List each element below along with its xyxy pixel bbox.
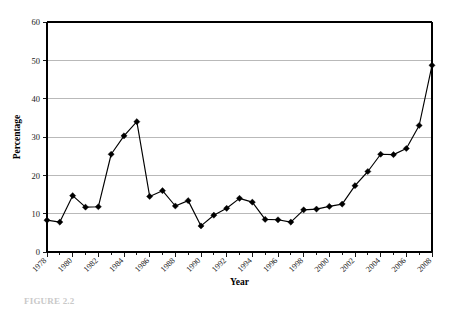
data-point-marker xyxy=(275,217,281,223)
y-tick-label: 60 xyxy=(32,17,41,27)
x-tick-label-group: 1988 xyxy=(159,256,177,274)
x-tick-label-group: 2008 xyxy=(415,256,433,274)
x-tick-label: 2008 xyxy=(415,256,433,274)
y-tick-label: 10 xyxy=(32,209,41,219)
y-tick-label: 50 xyxy=(32,56,41,66)
x-tick-label-group: 1990 xyxy=(184,256,202,274)
data-point-marker xyxy=(185,198,191,204)
x-tick-label: 1996 xyxy=(261,256,279,274)
x-tick-label: 1980 xyxy=(56,256,74,274)
x-tick-label-group: 1984 xyxy=(107,256,125,274)
x-tick-label-group: 1992 xyxy=(210,256,228,274)
x-tick-label-group: 1978 xyxy=(30,256,48,274)
x-tick-label: 2002 xyxy=(338,256,356,274)
y-tick-label: 40 xyxy=(32,94,41,104)
x-tick-label: 1978 xyxy=(30,256,48,274)
x-tick-label-group: 1980 xyxy=(56,256,74,274)
x-tick-label-group: 1996 xyxy=(261,256,279,274)
data-point-marker xyxy=(95,204,101,210)
x-tick-label: 1990 xyxy=(184,256,202,274)
figure-caption: FIGURE 2.2 xyxy=(24,296,75,306)
data-point-marker xyxy=(403,145,409,151)
x-tick-label: 1984 xyxy=(107,256,125,274)
data-series-line xyxy=(47,65,432,226)
data-point-marker xyxy=(429,62,435,68)
x-tick-label-group: 2002 xyxy=(338,256,356,274)
x-tick-label-group: 2006 xyxy=(390,256,408,274)
x-tick-label: 1998 xyxy=(287,256,305,274)
data-point-marker xyxy=(313,206,319,212)
x-tick-label: 1986 xyxy=(133,256,151,274)
line-chart: 0102030405060197819801982198419861988199… xyxy=(0,0,450,310)
data-point-marker xyxy=(147,193,153,199)
x-tick-label-group: 1986 xyxy=(133,256,151,274)
x-tick-label: 2000 xyxy=(313,256,331,274)
figure-container: 0102030405060197819801982198419861988199… xyxy=(0,0,450,310)
x-tick-label: 1994 xyxy=(236,256,254,274)
x-tick-label: 2006 xyxy=(390,256,408,274)
data-point-marker xyxy=(44,217,50,223)
x-tick-label-group: 1982 xyxy=(82,256,100,274)
y-tick-label: 0 xyxy=(36,247,40,257)
y-axis-title: Percentage xyxy=(12,115,22,160)
y-tick-label: 20 xyxy=(32,171,41,181)
x-tick-label: 1988 xyxy=(159,256,177,274)
x-tick-label-group: 2004 xyxy=(364,256,382,274)
x-tick-label-group: 1994 xyxy=(236,256,254,274)
x-tick-label-group: 1998 xyxy=(287,256,305,274)
x-tick-label: 1982 xyxy=(82,256,100,274)
data-point-marker xyxy=(416,122,422,128)
data-point-marker xyxy=(390,152,396,158)
y-tick-label: 30 xyxy=(32,132,41,142)
x-axis-title: Year xyxy=(230,277,250,287)
data-point-marker xyxy=(326,203,332,209)
x-tick-label: 1992 xyxy=(210,256,228,274)
x-tick-label: 2004 xyxy=(364,256,382,274)
x-tick-label-group: 2000 xyxy=(313,256,331,274)
data-point-marker xyxy=(57,219,63,225)
